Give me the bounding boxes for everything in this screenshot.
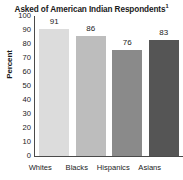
chart-title-footnote-marker: 1 xyxy=(165,3,168,9)
y-axis-tick-label: 70 xyxy=(23,54,31,62)
y-axis-tick-label: 40 xyxy=(23,96,31,104)
y-axis-tick-label: 50 xyxy=(23,82,31,90)
bar-group: 83 xyxy=(149,16,179,156)
bar-group: 76 xyxy=(112,16,142,156)
y-axis-tick-label: 60 xyxy=(23,68,31,76)
bar[interactable] xyxy=(149,40,179,156)
chart-title-text: Asked of American Indian Respondents xyxy=(15,5,166,14)
y-axis-tick-label: 0 xyxy=(27,152,31,160)
bar-group: 91 xyxy=(39,16,69,156)
y-axis-tick-label: 20 xyxy=(23,124,31,132)
x-axis-tick-label: Blacks xyxy=(59,163,96,172)
bar-group: 86 xyxy=(76,16,106,156)
plot-area: 1009080706050403020100 91867683 xyxy=(14,16,183,162)
bar[interactable] xyxy=(39,29,69,156)
y-axis-tick-label: 10 xyxy=(23,138,31,146)
y-axis-tick-label: 100 xyxy=(18,12,31,20)
bar-value-label: 86 xyxy=(76,25,106,33)
bar-value-label: 76 xyxy=(112,39,142,47)
x-axis-tick-labels: WhitesBlacksHispanicsAsians xyxy=(22,163,170,175)
y-axis-line xyxy=(34,16,35,157)
bar[interactable] xyxy=(112,50,142,156)
bar-chart: Asked of American Indian Respondents1 Pe… xyxy=(0,0,183,180)
y-axis-tick-label: 80 xyxy=(23,40,31,48)
bars-container: 91867683 xyxy=(36,16,182,156)
y-axis-tick-labels: 1009080706050403020100 xyxy=(14,16,32,156)
x-axis-tick-label: Asians xyxy=(132,163,169,172)
y-axis-label: Percent xyxy=(5,38,14,92)
x-axis-tick-label: Whites xyxy=(22,163,59,172)
bar-value-label: 91 xyxy=(39,18,69,26)
x-axis-line xyxy=(34,156,183,157)
x-axis-tick-label: Hispanics xyxy=(95,163,132,172)
bar[interactable] xyxy=(76,36,106,156)
y-axis-tick-label: 90 xyxy=(23,26,31,34)
bar-value-label: 83 xyxy=(149,29,179,37)
y-axis-tick-label: 30 xyxy=(23,110,31,118)
